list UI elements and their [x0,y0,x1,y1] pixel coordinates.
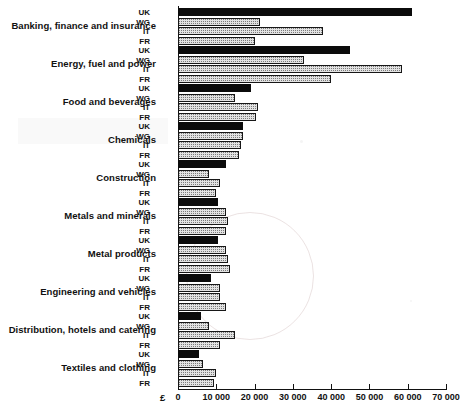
x-axis-tick-label: 30 000 [279,392,307,402]
bar-group: ChemicalsUKWGITFR [0,122,462,159]
bar [178,122,243,130]
bar [178,56,304,64]
series-tick-label: IT [126,27,150,36]
series-tick-label: IT [126,103,150,112]
series-row: WG [0,246,462,255]
bar [178,160,226,168]
series-tick-label: IT [126,179,150,188]
series-row: FR [0,113,462,122]
series-tick-label: IT [126,255,150,264]
series-row: UK [0,198,462,207]
bar [178,255,228,263]
bar [178,341,220,349]
series-row: IT [0,331,462,340]
series-tick-label: WG [126,360,150,369]
bar [178,312,201,320]
bar [178,8,412,16]
bar [178,227,226,235]
series-tick-label: UK [126,84,150,93]
series-row: FR [0,75,462,84]
bar [178,322,209,330]
series-tick-label: IT [126,141,150,150]
series-tick-label: UK [126,198,150,207]
series-row: WG [0,284,462,293]
bar-chart: 010 00020 00030 00040 00050 00060 00070 … [0,0,462,418]
bar [178,236,218,244]
series-tick-label: WG [126,246,150,255]
series-row: UK [0,46,462,55]
series-tick-label: FR [126,227,150,236]
series-tick-label: WG [126,56,150,65]
bar [178,170,209,178]
bar [178,379,214,387]
bar [178,75,331,83]
x-axis-tick-label: 0 [175,392,180,402]
bar [178,94,235,102]
bar [178,274,211,282]
series-tick-label: FR [126,265,150,274]
bar-group: Metals and mineralsUKWGITFR [0,198,462,235]
bar-group: ConstructionUKWGITFR [0,160,462,197]
bar [178,65,402,73]
bar [178,331,235,339]
bar-group: Banking, finance and insuranceUKWGITFR [0,8,462,45]
series-row: IT [0,103,462,112]
series-row: FR [0,341,462,350]
series-row: WG [0,208,462,217]
x-axis-tick-label: 20 000 [241,392,269,402]
series-row: FR [0,379,462,388]
x-axis-line [178,389,446,390]
series-row: WG [0,18,462,27]
series-tick-label: UK [126,46,150,55]
series-tick-label: IT [126,65,150,74]
bar [178,37,255,45]
bar [178,284,220,292]
bar [178,179,220,187]
series-row: UK [0,122,462,131]
bar [178,303,226,311]
bar [178,217,228,225]
series-row: IT [0,179,462,188]
series-row: FR [0,37,462,46]
series-tick-label: UK [126,8,150,17]
series-row: UK [0,312,462,321]
bar-group: Metal productsUKWGITFR [0,236,462,273]
series-tick-label: UK [126,160,150,169]
bar [178,265,230,273]
series-row: IT [0,255,462,264]
x-axis-tick-label: 10 000 [203,392,231,402]
bar-group: Food and beveragesUKWGITFR [0,84,462,121]
series-row: FR [0,151,462,160]
series-tick-label: WG [126,18,150,27]
bar [178,141,241,149]
bar-group: Distribution, hotels and cateringUKWGITF… [0,312,462,349]
bar [178,246,226,254]
series-row: UK [0,84,462,93]
bar-group: Energy, fuel and powerUKWGITFR [0,46,462,83]
series-row: FR [0,303,462,312]
series-tick-label: FR [126,37,150,46]
bar [178,103,258,111]
bar [178,369,216,377]
series-tick-label: WG [126,322,150,331]
series-row: UK [0,350,462,359]
bar [178,360,203,368]
plot-area: 010 00020 00030 00040 00050 00060 00070 … [0,0,462,418]
series-row: IT [0,293,462,302]
bar [178,132,243,140]
x-axis-tick-label: 70 000 [432,392,460,402]
series-row: FR [0,227,462,236]
series-tick-label: WG [126,132,150,141]
series-tick-label: FR [126,189,150,198]
series-tick-label: UK [126,312,150,321]
series-tick-label: WG [126,208,150,217]
bar [178,198,218,206]
series-tick-label: FR [126,341,150,350]
series-tick-label: FR [126,151,150,160]
series-row: IT [0,217,462,226]
series-row: WG [0,170,462,179]
currency-symbol: £ [160,392,165,403]
series-tick-label: UK [126,350,150,359]
series-tick-label: FR [126,379,150,388]
series-tick-label: IT [126,217,150,226]
